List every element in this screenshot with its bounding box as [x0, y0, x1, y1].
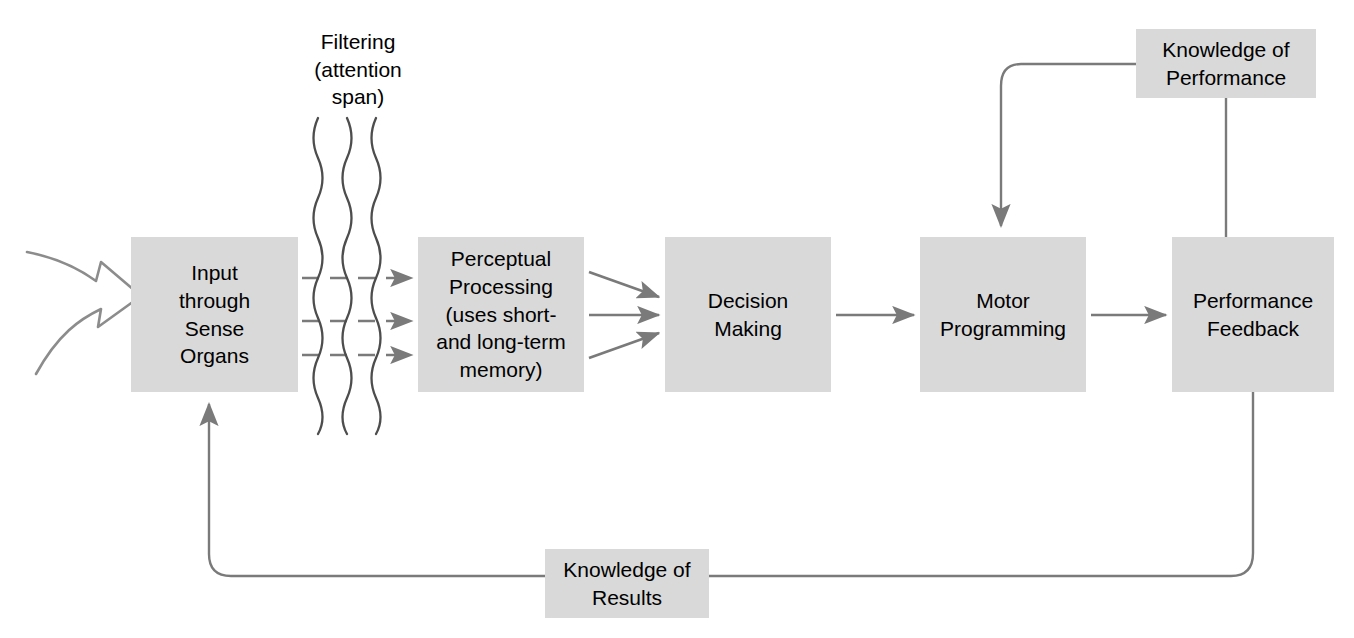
node-decision-making-label: Decision Making [702, 287, 795, 342]
node-knowledge-of-results-label: Knowledge of Results [557, 556, 696, 611]
filter-wave-lines [314, 118, 381, 434]
node-motor-programming-label: Motor Programming [934, 287, 1072, 342]
node-performance-feedback-label: Performance Feedback [1187, 287, 1319, 342]
node-knowledge-of-results[interactable]: Knowledge of Results [545, 549, 709, 618]
node-input-sense-organs[interactable]: Input through Sense Organs [131, 237, 298, 392]
node-knowledge-of-performance-label: Knowledge of Performance [1156, 36, 1295, 91]
kop-to-motor-arrow [1001, 64, 1136, 226]
node-input-sense-organs-label: Input through Sense Organs [173, 259, 256, 370]
perceptual-to-decision-arrows [589, 272, 659, 358]
node-decision-making[interactable]: Decision Making [665, 237, 831, 392]
node-motor-programming[interactable]: Motor Programming [920, 237, 1086, 392]
information-processing-diagram: Input through Sense Organs Perceptual Pr… [0, 0, 1354, 638]
filtering-attention-span-label: Filtering (attention span) [283, 28, 433, 111]
external-input-arrow [27, 252, 141, 374]
node-perceptual-processing-label: Perceptual Processing (uses short- and l… [430, 245, 572, 384]
node-knowledge-of-performance[interactable]: Knowledge of Performance [1136, 29, 1316, 98]
performance-to-input-feedback-path [209, 392, 1253, 576]
node-performance-feedback[interactable]: Performance Feedback [1172, 237, 1334, 392]
node-perceptual-processing[interactable]: Perceptual Processing (uses short- and l… [418, 237, 584, 392]
